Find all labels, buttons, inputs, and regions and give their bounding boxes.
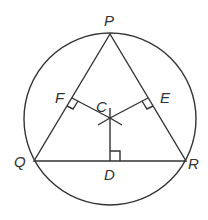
geometry-diagram: P Q R C D E F xyxy=(0,0,208,220)
label-r: R xyxy=(188,155,199,172)
label-p: P xyxy=(104,12,114,29)
label-d: D xyxy=(104,166,115,183)
label-q: Q xyxy=(14,153,26,170)
bisector-mark-left xyxy=(98,118,110,125)
right-angle-d xyxy=(110,151,120,161)
label-c: C xyxy=(96,98,107,115)
bisector-mark-right xyxy=(110,118,122,125)
label-e: E xyxy=(160,89,171,106)
label-f: F xyxy=(55,89,65,106)
